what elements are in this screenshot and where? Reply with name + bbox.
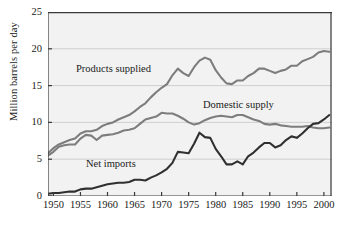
annotation-products-supplied: Products supplied (76, 63, 151, 74)
y-tick-label-15: 15 (18, 81, 42, 91)
annotation-domestic-supply: Domestic supply (203, 99, 274, 110)
y-tick-label-10: 10 (18, 117, 42, 127)
x-tick-label-2000: 2000 (304, 199, 344, 210)
annotation-net-imports: Net imports (86, 158, 136, 169)
y-axis-label: Million barrels per day (8, 0, 19, 147)
y-tick-label-5: 5 (18, 154, 42, 164)
y-tick-label-20: 20 (18, 44, 42, 54)
y-tick-label-25: 25 (18, 7, 42, 17)
chart-figure: Million barrels per day 0510152025 19501… (0, 0, 350, 229)
